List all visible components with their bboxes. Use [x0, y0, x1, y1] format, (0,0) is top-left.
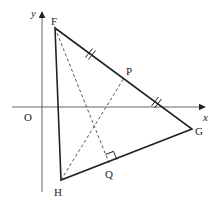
point-label-H: H: [54, 186, 62, 198]
y-axis-label: y: [30, 7, 36, 19]
point-label-F: F: [51, 15, 57, 27]
axes: [12, 12, 205, 192]
dashed-line-HP: [61, 78, 124, 180]
geometry-diagram: y x O F P G H Q: [0, 0, 221, 205]
point-label-Q: Q: [105, 168, 113, 180]
labels: y x O F P G H Q: [24, 7, 208, 198]
dashed-lines: [55, 28, 124, 180]
triangle-outline: [55, 28, 192, 180]
triangle-FGH: [55, 28, 192, 180]
origin-label: O: [24, 111, 32, 123]
point-label-P: P: [126, 65, 132, 77]
point-label-G: G: [195, 125, 203, 137]
x-axis-label: x: [202, 111, 208, 123]
